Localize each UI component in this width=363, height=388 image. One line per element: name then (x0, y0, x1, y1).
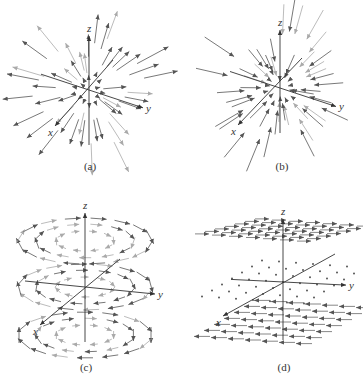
field-arrow (232, 98, 255, 107)
field-arrow (72, 325, 80, 326)
field-point (289, 288, 291, 290)
field-arrow (40, 248, 51, 253)
field-arrow (23, 250, 37, 258)
field-arrow (128, 299, 143, 305)
field-arrow (37, 26, 58, 52)
field-arrow (13, 67, 45, 76)
field-arrow (283, 4, 284, 34)
field-arrow (145, 239, 153, 253)
field-arrow (114, 142, 129, 172)
field-point (353, 273, 355, 275)
field-arrow (288, 79, 291, 82)
field-arrow (247, 139, 260, 171)
field-arrow (302, 108, 323, 126)
field-point (346, 265, 348, 267)
field-arrow (90, 325, 98, 326)
field-arrow (109, 281, 115, 287)
field-point (302, 269, 304, 271)
field-arrow (273, 101, 275, 105)
field-arrow (113, 237, 114, 245)
caption-b: (b) (262, 160, 302, 172)
field-arrow (90, 344, 98, 345)
field-arrow (295, 6, 303, 35)
field-arrow (144, 71, 178, 78)
y-axis-label-c: y (157, 288, 163, 300)
field-arrow (22, 41, 47, 59)
field-arrow (105, 339, 112, 342)
field-arrow (107, 347, 119, 350)
field-point (235, 298, 237, 300)
field-arrow (84, 53, 87, 73)
field-arrow (62, 350, 74, 352)
field-arrow (31, 349, 46, 354)
field-arrow (107, 11, 117, 39)
field-arrow (72, 344, 80, 345)
field-point (285, 268, 287, 270)
field-arrow (102, 313, 118, 315)
field-arrow (126, 231, 135, 239)
field-arrow (52, 355, 68, 357)
field-arrow (64, 278, 72, 280)
field-arrow (95, 102, 97, 106)
field-arrow (43, 322, 54, 326)
x-axis-label-c: x (32, 325, 38, 337)
field-arrow (40, 258, 56, 262)
field-arrow (18, 321, 30, 331)
field-arrow (307, 10, 324, 39)
field-arrow (133, 225, 147, 233)
x-axis-b (238, 58, 302, 125)
field-point (319, 270, 321, 272)
field-arrow (128, 92, 153, 94)
x-axis-label-d: x (215, 316, 221, 328)
field-point (323, 291, 325, 293)
field-arrow (271, 57, 277, 76)
field-arrow (272, 71, 274, 75)
field-arrow (96, 72, 98, 76)
field-arrow (35, 97, 60, 103)
field-arrow (54, 272, 66, 274)
y-axis-label-a: y (145, 102, 151, 114)
field-arrow (81, 84, 84, 87)
field-arrow (83, 309, 99, 310)
field-arrow (196, 68, 228, 75)
field-arrow (73, 250, 81, 251)
field-arrow (314, 83, 343, 85)
field-arrow (260, 109, 269, 127)
field-arrow (67, 224, 79, 225)
field-arrow (101, 93, 105, 94)
field-arrow (85, 318, 97, 319)
field-arrow (55, 287, 61, 293)
field-arrow (291, 96, 294, 98)
field-arrow (284, 106, 289, 126)
field-arrow (114, 297, 125, 301)
field-arrow (104, 233, 111, 236)
field-arrow (301, 130, 315, 157)
field-arrow (275, 111, 278, 135)
field-arrow (47, 227, 59, 231)
field-arrow (299, 119, 313, 141)
field-arrow (111, 227, 123, 231)
field-arrow (17, 274, 28, 286)
field-arrow (35, 302, 50, 306)
field-point (275, 274, 277, 276)
field-arrow (137, 47, 168, 64)
field-arrow (70, 119, 79, 144)
field-arrow (3, 96, 33, 99)
field-arrow (94, 120, 98, 142)
field-arrow (132, 250, 146, 257)
field-arrow (98, 278, 106, 280)
field-arrow (18, 339, 30, 349)
field-arrow (107, 320, 119, 323)
field-arrow (113, 258, 129, 262)
field-arrow (268, 79, 271, 81)
field-arrow (279, 102, 280, 122)
field-arrow (57, 255, 69, 257)
field-point (245, 292, 247, 294)
field-arrow (36, 290, 46, 297)
field-point (295, 262, 297, 264)
field-arrow (309, 32, 326, 52)
field-arrow (249, 50, 263, 67)
field-arrow (20, 293, 33, 302)
field-arrow (266, 85, 270, 86)
field-arrow (31, 316, 46, 321)
